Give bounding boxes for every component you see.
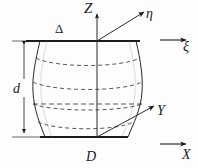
cross-section-1 <box>36 58 140 66</box>
cross-section-group <box>33 58 142 129</box>
cross-section-3 <box>33 104 142 110</box>
z-axis-label: Z <box>84 1 92 16</box>
y-axis-label: Y <box>157 104 165 118</box>
delta-label: Δ <box>55 22 63 35</box>
y-axis-line <box>97 106 154 137</box>
diagram-canvas <box>0 0 198 168</box>
eta-axis-label: η <box>146 7 153 21</box>
cross-section-2 <box>33 82 142 90</box>
figure-container: Z η ξ Y X Δ d D <box>0 0 198 168</box>
left-generatrix <box>41 41 52 137</box>
xi-axis-label: ξ <box>183 40 189 54</box>
x-axis-label: X <box>182 148 191 162</box>
base-diameter-label: D <box>86 150 96 164</box>
eta-axis-line <box>97 12 144 41</box>
height-label: d <box>13 82 20 96</box>
